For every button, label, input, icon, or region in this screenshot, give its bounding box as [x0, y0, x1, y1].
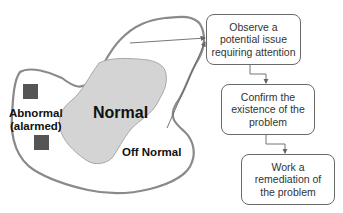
- step-remediate-box: Work a remediation of the problem: [241, 154, 335, 205]
- step-confirm-box: Confirm the existence of the problem: [221, 84, 315, 135]
- step-observe-box: Observe a potential issue requiring atte…: [206, 14, 301, 65]
- alarm-icon: [34, 135, 49, 150]
- connector-observe-confirm: [250, 65, 266, 83]
- abnormal-label-line1: Abnormal: [9, 107, 63, 120]
- connector-confirm-remediate: [266, 135, 285, 153]
- normal-label: Normal: [93, 104, 148, 122]
- off-normal-label: Off Normal: [122, 146, 181, 158]
- abnormal-label: Abnormal (alarmed): [9, 107, 63, 133]
- abnormal-label-line2: (alarmed): [9, 120, 63, 133]
- alarm-icon: [23, 84, 38, 99]
